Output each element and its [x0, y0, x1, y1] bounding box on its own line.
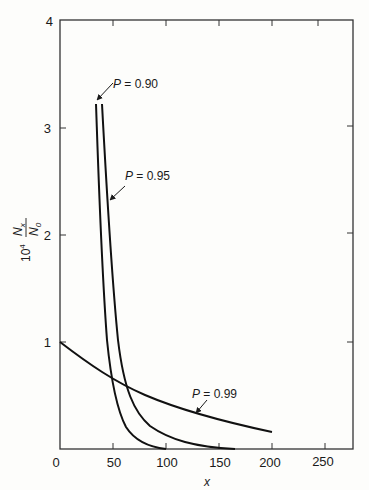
plot-frame: [60, 20, 353, 449]
x-tick-label: 0: [52, 455, 59, 470]
y-axis-title: 104 Nx N0: [11, 218, 43, 262]
arrow-p090: [97, 83, 113, 100]
arrow-p099: [196, 400, 207, 413]
x-tick-label: 150: [209, 455, 231, 470]
x-tick-label: 250: [312, 454, 334, 469]
y-title-numerator: Nx: [11, 222, 27, 236]
curve-p099: [60, 342, 272, 432]
y-tick-label: 3: [44, 121, 51, 136]
x-tick-labels: 0 50 100 150 200 250: [52, 454, 333, 470]
chart-canvas: 0 50 100 150 200 250 1 2 3 4 x 104 Nx N0…: [0, 0, 369, 490]
x-tick-label: 200: [259, 455, 281, 470]
y-tick-label: 2: [44, 228, 51, 243]
x-axis-title: x: [203, 475, 211, 489]
label-p095: P = 0.95: [125, 169, 170, 183]
arrow-p095: [110, 186, 125, 200]
y-tick-label: 1: [44, 335, 51, 350]
label-p099: P = 0.99: [192, 387, 237, 401]
y-tick-label: 4: [46, 14, 53, 29]
label-p090: P = 0.90: [113, 77, 158, 91]
x-tick-label: 50: [107, 455, 121, 470]
y-title-denominator: N0: [27, 222, 43, 236]
y-tick-labels: 1 2 3 4: [44, 14, 53, 350]
y-title-prefix: 104: [18, 244, 33, 262]
x-tick-label: 100: [156, 455, 178, 470]
